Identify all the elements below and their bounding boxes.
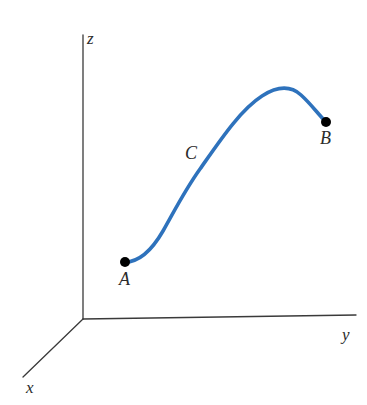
- point-a-label: A: [119, 270, 130, 288]
- point-b-label: B: [320, 129, 331, 147]
- point-b-dot: [321, 117, 331, 127]
- z-axis-label: z: [87, 30, 94, 47]
- x-axis-line: [23, 319, 83, 377]
- diagram-svg: [0, 0, 367, 405]
- y-axis-label: y: [342, 326, 350, 343]
- curve-label-c: C: [185, 144, 197, 162]
- y-axis-line: [83, 315, 356, 319]
- figure-canvas: z y x A B C: [0, 0, 367, 405]
- space-curve-c: [125, 88, 326, 262]
- point-a-dot: [120, 257, 130, 267]
- x-axis-label: x: [26, 379, 34, 396]
